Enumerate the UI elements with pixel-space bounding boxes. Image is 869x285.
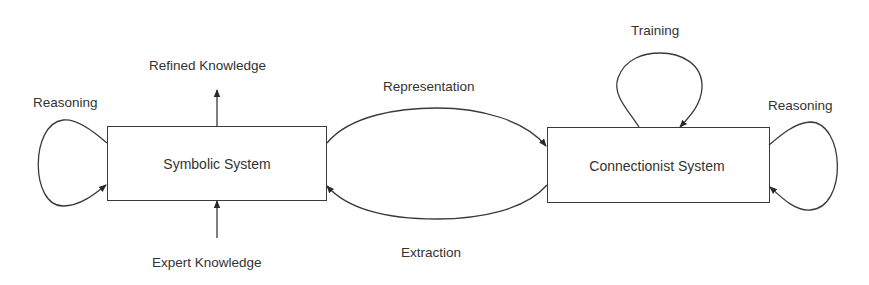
refined-knowledge-label: Refined Knowledge [149,59,266,73]
extraction-label: Extraction [401,246,461,260]
extraction-arrow [327,185,547,219]
connectionist-reasoning-loop-arrow [769,122,837,210]
symbolic-reasoning-loop-arrow [38,120,107,206]
representation-arrow [327,108,546,146]
expert-knowledge-label: Expert Knowledge [152,256,262,270]
connectionist-reasoning-label: Reasoning [768,99,833,113]
connectionist-system-label: Connectionist System [589,159,724,173]
symbolic-reasoning-label: Reasoning [33,96,98,110]
symbolic-system-label: Symbolic System [163,157,270,171]
representation-label: Representation [383,80,475,94]
training-label: Training [631,24,679,38]
training-loop-arrow [617,53,702,127]
